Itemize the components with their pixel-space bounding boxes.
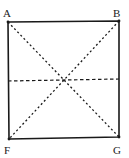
square-diagram: A B F G xyxy=(0,0,129,158)
vertex-f-dot xyxy=(8,138,11,141)
label-g: G xyxy=(113,144,121,156)
vertex-g-dot xyxy=(118,136,121,139)
label-f: F xyxy=(4,144,10,156)
label-b: B xyxy=(113,7,120,19)
vertex-a-dot xyxy=(7,21,10,24)
label-a: A xyxy=(3,7,11,19)
vertex-b-dot xyxy=(118,20,121,23)
